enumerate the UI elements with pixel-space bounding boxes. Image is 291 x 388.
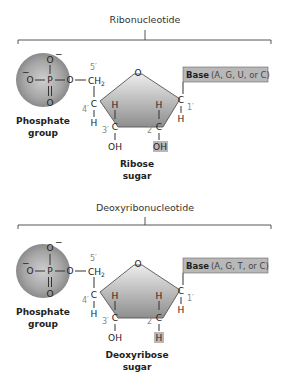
phosphate-o-left: O — [26, 75, 33, 85]
phosphate-o-top: O — [46, 55, 53, 65]
svg-text:O: O — [134, 259, 141, 269]
svg-text:H: H — [156, 291, 163, 301]
svg-text:H: H — [112, 100, 119, 110]
deoxyribose-sugar: 5′ CH2 O C 4′ H H 3′ C OH H 2′ C H C 1′ — [75, 254, 194, 372]
ch2: CH2 — [88, 76, 105, 87]
phosphate-label: Phosphate — [16, 116, 70, 126]
svg-text:Deoxyribose: Deoxyribose — [105, 350, 168, 360]
svg-text:P: P — [47, 266, 53, 276]
phosphate-group: O − − O P O O Phosphate group — [16, 237, 74, 329]
svg-text:−: − — [55, 237, 63, 247]
svg-text:sugar: sugar — [123, 362, 152, 372]
svg-text:group: group — [28, 319, 58, 329]
nucleotide-diagram: Ribonucleotide O − − O P O O Phosphate g… — [0, 0, 291, 388]
svg-text:C: C — [178, 286, 184, 296]
svg-text:O: O — [66, 266, 73, 276]
base-box: Base(A, G, T, or C) — [183, 258, 269, 273]
svg-text:H: H — [91, 118, 98, 128]
phosphate-o-bottom: O — [46, 98, 53, 108]
phosphate-p: P — [47, 75, 53, 85]
panel-title: Ribonucleotide — [110, 14, 181, 25]
svg-text:Phosphate: Phosphate — [16, 307, 70, 317]
svg-text:Base(A, G, U, or C): Base(A, G, U, or C) — [186, 70, 270, 80]
svg-text:5′: 5′ — [90, 254, 97, 263]
bracket — [18, 30, 271, 44]
svg-text:OH: OH — [108, 333, 122, 343]
panel-title: Deoxyribonucleotide — [96, 202, 194, 213]
svg-text:1′: 1′ — [187, 103, 194, 112]
svg-text:H: H — [156, 100, 163, 110]
ribonucleotide-panel: Ribonucleotide O − − O P O O Phosphate g… — [16, 14, 271, 181]
svg-text:2′: 2′ — [147, 317, 154, 326]
svg-text:H: H — [112, 291, 119, 301]
charge: − — [55, 49, 63, 59]
ribose-sugar: 5′ CH2 O C 4′ H H 3′ C OH H 2′ C OH C 1′ — [75, 63, 194, 181]
phosphate-group: O − − O P O O Phosphate group — [16, 49, 74, 138]
svg-text:5′: 5′ — [90, 63, 97, 72]
c2-hydroxyl: OH — [153, 142, 167, 152]
sugar-label: sugar — [123, 171, 152, 181]
svg-text:O: O — [46, 289, 53, 299]
phosphate-label: group — [28, 128, 58, 138]
svg-text:4′: 4′ — [82, 105, 89, 114]
svg-text:C: C — [112, 313, 118, 323]
svg-text:H: H — [91, 309, 98, 319]
c3-hydroxyl: OH — [108, 142, 122, 152]
svg-text:H: H — [178, 114, 185, 124]
svg-text:C: C — [91, 99, 97, 109]
c2-hydrogen: H — [156, 333, 163, 343]
svg-text:2′: 2′ — [147, 126, 154, 135]
svg-text:C: C — [156, 313, 162, 323]
svg-text:O: O — [26, 266, 33, 276]
svg-text:C: C — [91, 290, 97, 300]
svg-text:3′: 3′ — [102, 317, 109, 326]
bracket — [18, 217, 271, 229]
svg-text:C: C — [112, 122, 118, 132]
svg-text:4′: 4′ — [82, 296, 89, 305]
svg-text:Base(A, G, T, or C): Base(A, G, T, or C) — [186, 261, 269, 271]
deoxyribonucleotide-panel: Deoxyribonucleotide O − − O P O O Phosph… — [16, 202, 271, 372]
svg-text:1′: 1′ — [187, 294, 194, 303]
sugar-label: Ribose — [120, 159, 154, 169]
svg-text:3′: 3′ — [102, 126, 109, 135]
ring-oxygen: O — [134, 68, 141, 78]
svg-text:C: C — [156, 122, 162, 132]
phosphate-o-right: O — [66, 75, 73, 85]
svg-text:H: H — [178, 305, 185, 315]
svg-text:O: O — [46, 243, 53, 253]
svg-text:CH2: CH2 — [88, 267, 105, 278]
base-box: Base(A, G, U, or C) — [183, 67, 270, 82]
svg-text:C: C — [178, 95, 184, 105]
